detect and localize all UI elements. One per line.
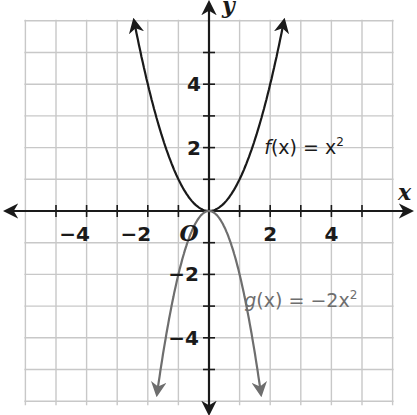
axes [6, 3, 411, 413]
y-tick-label: 4 [187, 72, 201, 96]
g-function-label: g(x) = −2x2 [244, 288, 357, 311]
x-axis-label: x [397, 179, 412, 205]
y-tick-label: −2 [168, 262, 199, 286]
origin-label: O [179, 220, 198, 246]
y-tick-label: −4 [168, 326, 199, 350]
x-tick-label: 4 [324, 222, 338, 246]
y-axis-label: y [221, 0, 237, 18]
y-tick-label: 2 [187, 136, 201, 160]
x-tick-label: −2 [120, 222, 151, 246]
coordinate-plane: −4−22442−2−4Oxyf(x) = x2g(x) = −2x2 [0, 0, 417, 415]
x-tick-label: 2 [263, 222, 277, 246]
x-tick-label: −4 [59, 222, 90, 246]
f-function-label: f(x) = x2 [264, 135, 344, 158]
